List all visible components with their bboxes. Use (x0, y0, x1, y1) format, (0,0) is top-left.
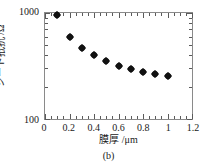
x-axis-minor-tick (76, 116, 77, 119)
x-axis-minor-tick-top (100, 13, 101, 16)
x-axis-minor-tick-top (106, 13, 107, 16)
data-point (139, 67, 147, 75)
x-axis-tick-label-1: 1 (166, 123, 171, 133)
data-point (114, 61, 122, 69)
x-axis-major-tick-top (119, 13, 120, 18)
data-point (102, 57, 110, 65)
figure-caption: (b) (0, 150, 217, 162)
plot-area (45, 13, 192, 119)
y-axis-major-tick (45, 119, 50, 120)
y-axis-title: シート抵抗 /Ω (0, 0, 8, 112)
x-axis-minor-tick (51, 116, 52, 119)
y-axis-minor-tick-right (189, 87, 192, 88)
y-axis-minor-tick-right (189, 55, 192, 56)
y-axis-tick-label-1000: 1000 (19, 7, 39, 17)
x-axis-minor-tick-top (186, 13, 187, 16)
y-axis-minor-tick (45, 45, 48, 46)
x-axis-minor-tick-top (131, 13, 132, 16)
data-point (127, 65, 135, 73)
x-axis-major-tick (45, 114, 46, 119)
y-axis-tick-label-100: 100 (24, 115, 39, 125)
x-axis-tick-label-0-8: 0.8 (137, 123, 150, 133)
x-axis-minor-tick-top (137, 13, 138, 16)
x-axis-minor-tick-top (63, 13, 64, 16)
x-axis-minor-tick (155, 116, 156, 119)
x-axis-tick-label-0-4: 0.4 (87, 123, 100, 133)
data-point (53, 11, 61, 19)
x-axis-major-tick (143, 114, 144, 119)
x-axis-minor-tick (106, 116, 107, 119)
x-axis-minor-tick (161, 116, 162, 119)
y-axis-minor-tick (45, 29, 48, 30)
x-axis-major-tick (119, 114, 120, 119)
x-axis-minor-tick (125, 116, 126, 119)
data-point (65, 32, 73, 40)
x-axis-minor-tick-top (88, 13, 89, 16)
y-axis-minor-tick-right (189, 68, 192, 69)
y-axis-minor-tick-right (189, 45, 192, 46)
x-axis-tick-label-1-2: 1.2 (187, 123, 200, 133)
x-axis-minor-tick-top (76, 13, 77, 16)
y-axis-minor-tick (45, 87, 48, 88)
x-axis-minor-tick (174, 116, 175, 119)
x-axis-major-tick-top (94, 13, 95, 18)
x-axis-minor-tick-top (149, 13, 150, 16)
x-axis-tick-label-0-2: 0.2 (63, 123, 76, 133)
x-axis-minor-tick (100, 116, 101, 119)
y-axis-minor-tick (45, 55, 48, 56)
x-axis-minor-tick (82, 116, 83, 119)
y-axis-minor-tick (45, 37, 48, 38)
data-point (151, 70, 159, 78)
x-axis-minor-tick-top (174, 13, 175, 16)
y-axis-minor-tick (45, 23, 48, 24)
x-axis-minor-tick (57, 116, 58, 119)
x-axis-tick-label-0: 0 (42, 123, 47, 133)
x-axis-minor-tick (180, 116, 181, 119)
x-axis-major-tick (168, 114, 169, 119)
x-axis-major-tick-top (168, 13, 169, 18)
data-point (163, 71, 171, 79)
x-axis-major-tick-top (192, 13, 193, 18)
x-axis-minor-tick (63, 116, 64, 119)
x-axis-major-tick (70, 114, 71, 119)
x-axis-tick-label-0-6: 0.6 (112, 123, 125, 133)
chart-figure: シート抵抗 /Ω 1000 100 0 0.2 0.4 0.6 0.8 1 1.… (0, 0, 217, 168)
y-axis-minor-tick-right (189, 29, 192, 30)
x-axis-minor-tick-top (112, 13, 113, 16)
x-axis-minor-tick (149, 116, 150, 119)
data-point (90, 50, 98, 58)
x-axis-minor-tick (186, 116, 187, 119)
x-axis-minor-tick (112, 116, 113, 119)
x-axis-minor-tick (137, 116, 138, 119)
x-axis-minor-tick-top (82, 13, 83, 16)
x-axis-major-tick-top (45, 13, 46, 18)
x-axis-title: 膜厚 /μm (44, 134, 193, 146)
plot-frame (44, 12, 193, 120)
y-axis-major-tick-right (187, 119, 192, 120)
data-point (78, 44, 86, 52)
x-axis-minor-tick-top (180, 13, 181, 16)
y-axis-minor-tick-right (189, 23, 192, 24)
x-axis-major-tick-top (70, 13, 71, 18)
x-axis-minor-tick-top (155, 13, 156, 16)
x-axis-minor-tick (88, 116, 89, 119)
x-axis-minor-tick (131, 116, 132, 119)
x-axis-major-tick-top (143, 13, 144, 18)
x-axis-minor-tick-top (161, 13, 162, 16)
x-axis-minor-tick-top (125, 13, 126, 16)
x-axis-major-tick (192, 114, 193, 119)
y-axis-minor-tick (45, 68, 48, 69)
x-axis-major-tick (94, 114, 95, 119)
y-axis-minor-tick-right (189, 37, 192, 38)
